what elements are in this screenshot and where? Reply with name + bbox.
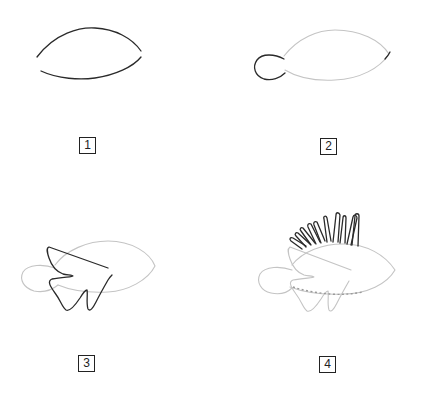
spine [340, 216, 346, 243]
body-top-arc [37, 28, 141, 57]
tail-fin [255, 55, 285, 80]
step-3-drawing [22, 241, 155, 310]
dorsal-spines [290, 213, 359, 249]
drawing-canvas [0, 0, 423, 419]
step-3-label: 3 [78, 355, 95, 372]
tail-fin-guide [259, 267, 292, 293]
step-4-drawing [259, 213, 395, 312]
step-2-label: 2 [320, 138, 337, 155]
body-outline-guide [284, 30, 389, 80]
fin-guide [288, 247, 351, 311]
spine [308, 224, 320, 244]
spine [324, 216, 331, 242]
spine [333, 213, 340, 242]
body-bottom-arc [41, 57, 141, 79]
step-1-label: 1 [79, 137, 96, 154]
step-2-drawing [255, 30, 390, 80]
step-4-label: 4 [319, 356, 336, 373]
step-1-drawing [37, 28, 141, 79]
body-outline-guide [290, 244, 395, 294]
dorsal-fin [47, 247, 112, 310]
mouth-mark [385, 52, 390, 59]
